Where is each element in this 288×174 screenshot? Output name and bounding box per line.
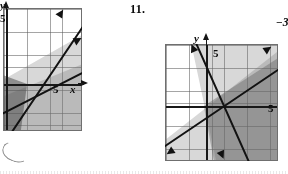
right-graph (165, 44, 278, 161)
equation-block: x − −3x − (198, 1, 288, 29)
right-y-axis (206, 45, 208, 160)
right-y-tick-label: 5 (213, 48, 219, 59)
left-x-tick-label: 5 (53, 84, 59, 95)
left-x-axis-stem (78, 83, 84, 85)
problem-number-11: 11. (130, 2, 145, 17)
right-y-axis-label: y (194, 33, 199, 44)
scan-artifact-arc (0, 138, 32, 166)
right-x-tick-label: 5 (268, 103, 274, 114)
equation-line-2: −3x − (214, 15, 288, 29)
left-graph-plot-area (3, 8, 82, 131)
left-halftone-texture (4, 9, 81, 130)
left-graph (3, 8, 82, 131)
equation-line-1: x − (214, 1, 288, 15)
right-graph-plot-area (165, 44, 278, 161)
textbook-page: y 5 5 x 11. x − −3x − (0, 0, 288, 174)
scan-top-edge-artifact (0, 171, 288, 174)
left-y-tick-label: 5 (0, 13, 6, 24)
right-y-axis-stem (206, 36, 208, 45)
left-y-axis-label: y (0, 0, 5, 11)
left-y-axis-stem (6, 4, 8, 12)
left-x-axis-label: x (70, 84, 76, 95)
